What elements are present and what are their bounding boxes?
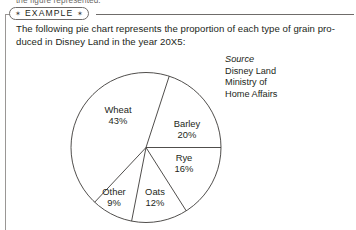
body-paragraph-line-2: duced in Disney Land in the year 20X5:: [16, 35, 350, 48]
pie-slice-label-barley: Barley 20%: [158, 118, 216, 141]
star-icon-right: ✶: [77, 10, 83, 17]
body-paragraph: The following pie chart represents the p…: [16, 22, 350, 48]
pie-slice-name-wheat: Wheat: [87, 104, 149, 115]
pie-slice-value-rye: 16%: [158, 163, 210, 174]
pie-slice-label-rye: Rye 16%: [158, 152, 210, 175]
source-note-line-3: Home Affairs: [225, 89, 277, 101]
source-note-line-1: Disney Land: [225, 66, 277, 78]
pie-slice-name-other: Other: [94, 186, 134, 197]
pie-spoke-wheat-barley: [146, 76, 169, 147]
example-callout-badge: ✶ EXAMPLE ✶: [9, 7, 89, 20]
example-horizontal-rule: [96, 14, 354, 15]
previous-paragraph-fragment: the figure represented.: [16, 0, 101, 5]
pie-slice-name-rye: Rye: [158, 152, 210, 163]
pie-slice-value-other: 9%: [94, 197, 134, 208]
star-icon-left: ✶: [15, 10, 21, 17]
pie-spoke-rye-oats: [146, 148, 186, 211]
pie-slice-value-wheat: 43%: [87, 115, 149, 126]
source-note: Source Disney Land Ministry of Home Affa…: [225, 54, 277, 100]
pie-outline: [71, 73, 221, 223]
pie-spoke-other-wheat: [95, 148, 146, 203]
body-paragraph-line-1: The following pie chart represents the p…: [16, 22, 350, 35]
pie-slice-value-barley: 20%: [158, 129, 216, 140]
pie-slice-name-oats: Oats: [134, 186, 176, 197]
frame-left-rule: [5, 14, 6, 230]
source-note-title: Source: [225, 54, 277, 66]
pie-slice-name-barley: Barley: [158, 118, 216, 129]
pie-slice-value-oats: 12%: [134, 197, 176, 208]
pie-slice-label-oats: Oats 12%: [134, 186, 176, 209]
pie-spoke-oats-other: [132, 148, 146, 222]
pie-slice-label-other: Other 9%: [94, 186, 134, 209]
source-note-line-2: Ministry of: [225, 77, 277, 89]
pie-slice-label-wheat: Wheat 43%: [87, 104, 149, 127]
example-callout-label: EXAMPLE: [25, 8, 73, 18]
page-canvas: the figure represented. ✶ EXAMPLE ✶ The …: [0, 0, 356, 230]
